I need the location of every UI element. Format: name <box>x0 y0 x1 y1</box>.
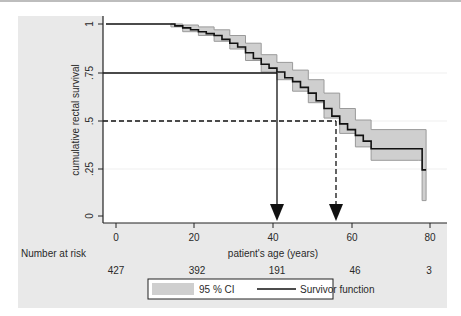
legend: 95 % CI Survivor function <box>148 279 374 299</box>
y-tick-label: .75 <box>84 66 95 80</box>
x-ticks <box>116 223 430 228</box>
risk-value: 392 <box>189 265 206 276</box>
y-ticks <box>98 24 103 216</box>
risk-value: 3 <box>426 265 432 276</box>
legend-survivor-label: Survivor function <box>300 284 374 295</box>
y-axis-label: cumulative rectal survival <box>70 64 81 176</box>
x-tick-label: 80 <box>424 232 436 243</box>
risk-value: 46 <box>349 265 361 276</box>
risk-value: 191 <box>269 265 286 276</box>
legend-ci-swatch <box>152 283 194 295</box>
y-tick-label: 0 <box>84 213 95 219</box>
y-tick-label: .5 <box>84 116 95 125</box>
plot-area <box>103 16 447 223</box>
y-tick-label: .25 <box>84 162 95 176</box>
legend-ci-label: 95 % CI <box>199 284 235 295</box>
risk-value: 427 <box>108 265 125 276</box>
x-tick-label: 0 <box>113 232 119 243</box>
y-tick-label: 1 <box>84 21 95 27</box>
risk-table-label: Number at risk <box>21 248 87 259</box>
km-chart: 1 .75 .5 .25 0 cumulative rectal surviva… <box>0 0 461 316</box>
x-tick-label: 40 <box>267 232 279 243</box>
x-tick-label: 60 <box>346 232 358 243</box>
x-axis-label: patient's age (years) <box>228 248 318 259</box>
x-tick-label: 20 <box>188 232 200 243</box>
